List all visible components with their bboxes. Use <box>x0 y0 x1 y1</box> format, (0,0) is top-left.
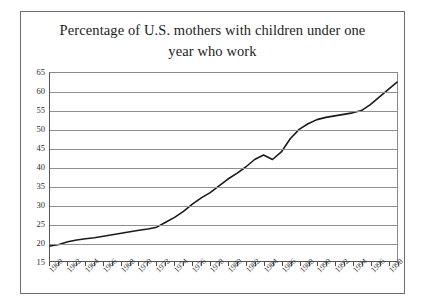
series-line <box>50 73 397 261</box>
gridline-y-35 <box>50 187 397 188</box>
gridline-y-40 <box>50 168 397 169</box>
y-tick-label-25: 25 <box>19 219 45 229</box>
y-axis: 1520253035404550556065 <box>14 72 45 262</box>
y-tick-label-20: 20 <box>19 238 45 248</box>
chart-title-line-1: Percentage of U.S. mothers with children… <box>35 20 390 41</box>
y-tick-label-15: 15 <box>19 257 45 267</box>
gridline-y-30 <box>50 206 397 207</box>
y-tick-label-40: 40 <box>19 162 45 172</box>
x-axis: 1960196219641966196819701972197419761978… <box>49 262 398 306</box>
y-tick-label-35: 35 <box>19 181 45 191</box>
y-tick-label-45: 45 <box>19 143 45 153</box>
gridline-y-60 <box>50 92 397 93</box>
y-tick-label-30: 30 <box>19 200 45 210</box>
chart-title-line-2: year who work <box>35 41 390 62</box>
gridline-y-25 <box>50 225 397 226</box>
chart-figure: Percentage of U.S. mothers with children… <box>0 0 425 306</box>
y-tick-label-60: 60 <box>19 86 45 96</box>
gridline-y-55 <box>50 111 397 112</box>
gridline-y-20 <box>50 244 397 245</box>
y-tick-label-55: 55 <box>19 105 45 115</box>
plot-area <box>49 72 398 262</box>
gridline-y-50 <box>50 130 397 131</box>
y-tick-label-50: 50 <box>19 124 45 134</box>
chart-title: Percentage of U.S. mothers with children… <box>35 20 390 62</box>
y-tick-label-65: 65 <box>19 67 45 77</box>
gridline-y-45 <box>50 149 397 150</box>
